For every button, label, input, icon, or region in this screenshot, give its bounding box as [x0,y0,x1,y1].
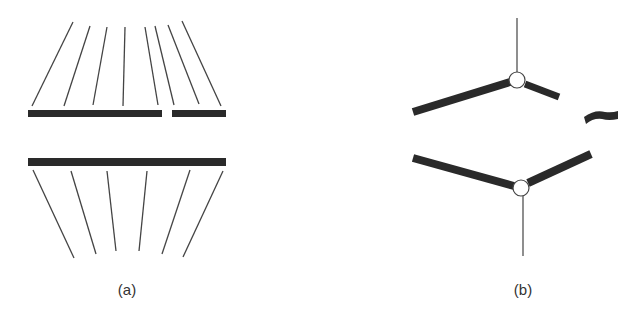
panel-a-upper-line [155,26,174,105]
panel-a-lower-line [139,171,147,251]
panel-a-upper-line [182,21,221,106]
panel-b-lower-joint [513,180,529,196]
panel-a-lower-line [71,171,96,254]
panel-b-caption: (b) [514,281,532,298]
panel-a: (a) [28,21,226,298]
panel-a-upper-lines [32,21,221,106]
panel-a-upper-line [32,22,73,106]
panel-a-upper-line [123,27,125,106]
panel-a-upper-line [145,27,158,105]
panel-b: (b) [413,18,618,298]
panel-b-upper-left-arm [413,82,510,112]
panel-a-upper-line [168,25,199,104]
panel-b-lower-right-arm [528,154,591,183]
panel-b-lower-left-arm [413,158,514,186]
panel-b-upper-joint [509,72,525,88]
panel-a-lower-lines [33,170,223,258]
panel-a-upper-line [64,26,90,106]
figure-canvas: (a) (b) [0,0,634,312]
panel-a-lower-line [183,171,223,257]
panel-a-upper-line [93,27,107,105]
panel-a-upper-bar-left [28,110,162,117]
panel-b-upper-right-arm [525,84,559,97]
panel-a-upper-bar-right [172,110,226,117]
panel-a-lower-line [107,171,116,251]
panel-a-lower-bar [28,158,226,166]
panel-a-lower-line [162,170,190,254]
panel-b-fragment [584,111,618,124]
panel-a-caption: (a) [118,281,136,298]
panel-a-lower-line [33,170,74,258]
